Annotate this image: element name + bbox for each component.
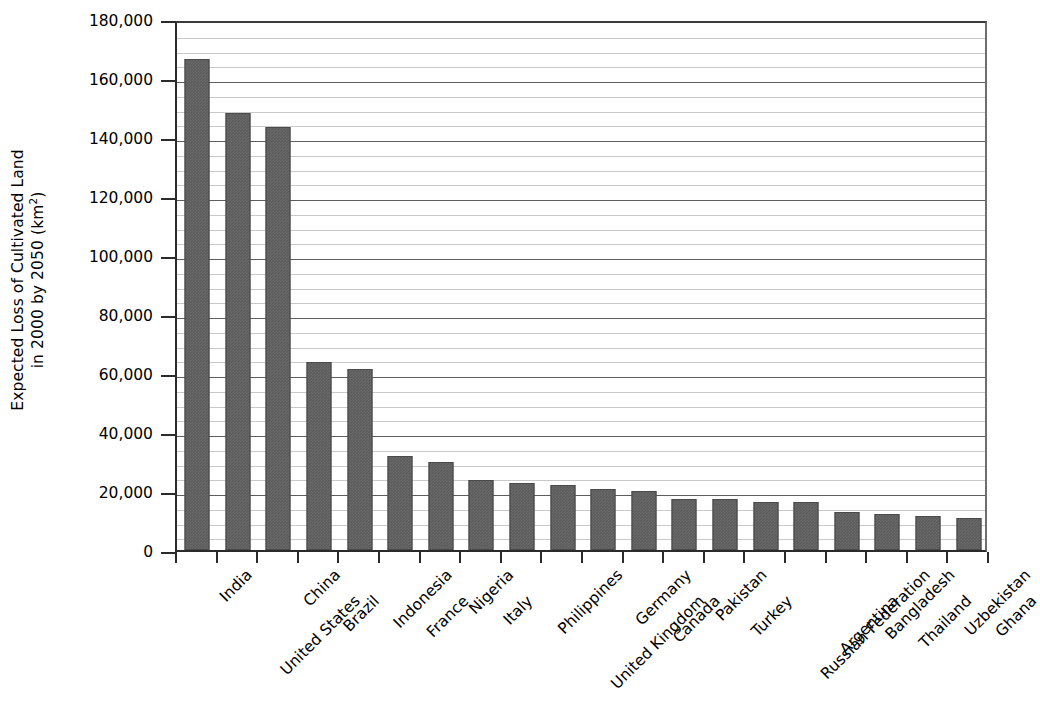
y-axis-tick-label: 80,000	[99, 305, 153, 327]
bar[interactable]	[591, 489, 616, 550]
x-axis-tick-mark	[743, 552, 745, 563]
y-axis-tick-mark	[161, 316, 175, 318]
y-axis-tick-mark	[161, 21, 175, 23]
x-axis-tick-mark	[703, 552, 705, 563]
bar-slot	[664, 23, 705, 550]
bar-slot	[705, 23, 746, 550]
x-axis-tick-mark	[256, 552, 258, 563]
bar[interactable]	[428, 462, 453, 550]
bar[interactable]	[347, 369, 372, 550]
bar[interactable]	[875, 514, 900, 550]
bar[interactable]	[388, 456, 413, 550]
bar-slot	[948, 23, 989, 550]
x-axis-tick-mark	[216, 552, 218, 563]
x-axis-label: India	[216, 566, 256, 606]
bar-slot	[177, 23, 218, 550]
y-axis-tick-label: 0	[143, 541, 153, 563]
bar[interactable]	[266, 127, 291, 550]
bar-slot	[299, 23, 340, 550]
bar[interactable]	[672, 499, 697, 550]
plot-area	[175, 21, 987, 552]
bar[interactable]	[307, 362, 332, 550]
x-axis-tick-mark	[540, 552, 542, 563]
x-axis-label: Italy	[499, 592, 536, 629]
y-axis-tick-label: 140,000	[89, 128, 153, 150]
y-axis-tick-label: 40,000	[99, 423, 153, 445]
bar-slot	[380, 23, 421, 550]
y-axis-title-line-2-prefix: in 2000 by 2050 (km	[29, 205, 47, 369]
bars-layer	[177, 23, 985, 550]
x-axis-tick-mark	[175, 552, 177, 563]
bar-slot	[218, 23, 259, 550]
y-axis-title: Expected Loss of Cultivated Land in 2000…	[0, 0, 56, 560]
x-axis-tick-mark	[500, 552, 502, 563]
x-axis-tick-mark	[825, 552, 827, 563]
bar[interactable]	[916, 516, 941, 550]
bar-slot	[867, 23, 908, 550]
y-axis-ticks: 020,00040,00060,00080,000100,000120,0001…	[0, 0, 175, 573]
bar-slot	[258, 23, 299, 550]
y-axis-tick-label: 180,000	[89, 10, 153, 32]
bar-slot	[827, 23, 868, 550]
x-axis-tick-mark	[297, 552, 299, 563]
y-axis-tick-label: 160,000	[89, 69, 153, 91]
bar-slot	[786, 23, 827, 550]
bar-slot	[542, 23, 583, 550]
y-axis-tick-mark	[161, 493, 175, 495]
x-axis-tick-mark	[865, 552, 867, 563]
y-axis-tick-mark	[161, 375, 175, 377]
bar[interactable]	[185, 59, 210, 550]
x-axis-tick-mark	[378, 552, 380, 563]
y-axis-tick-mark	[161, 198, 175, 200]
x-axis-tick-mark	[419, 552, 421, 563]
y-axis-title-line-2-suffix: )	[29, 192, 47, 198]
bar[interactable]	[469, 480, 494, 551]
bar-slot	[583, 23, 624, 550]
y-axis-tick-label: 100,000	[89, 246, 153, 268]
bar[interactable]	[794, 502, 819, 550]
x-axis-label: United States	[277, 592, 364, 679]
bar-slot	[339, 23, 380, 550]
y-axis-tick-mark	[161, 434, 175, 436]
bar[interactable]	[834, 512, 859, 550]
y-axis-tick-label: 120,000	[89, 187, 153, 209]
bar-slot	[624, 23, 665, 550]
y-axis-title-line-2: in 2000 by 2050 (km2)	[28, 149, 48, 410]
y-axis-tick-label: 20,000	[99, 482, 153, 504]
x-axis-ticks	[175, 552, 987, 566]
bar-slot	[461, 23, 502, 550]
x-axis-tick-mark	[337, 552, 339, 563]
x-axis-tick-mark	[946, 552, 948, 563]
y-axis-title-line-1: Expected Loss of Cultivated Land	[8, 149, 28, 410]
bar[interactable]	[550, 485, 575, 550]
x-axis-tick-mark	[784, 552, 786, 563]
x-axis-label: Turkey	[748, 592, 796, 640]
x-axis-tick-mark	[581, 552, 583, 563]
x-axis-label: Philippines	[555, 566, 627, 638]
x-axis-tick-mark	[662, 552, 664, 563]
x-axis-tick-mark	[622, 552, 624, 563]
x-axis-tick-mark	[906, 552, 908, 563]
bar[interactable]	[631, 491, 656, 550]
x-axis-tick-mark	[459, 552, 461, 563]
y-axis-tick-mark	[161, 552, 175, 554]
x-axis-label: China	[299, 566, 343, 610]
bar-slot	[502, 23, 543, 550]
bar-slot	[745, 23, 786, 550]
x-axis-tick-mark	[987, 552, 989, 563]
bar[interactable]	[753, 502, 778, 550]
bar-slot	[908, 23, 949, 550]
y-axis-tick-mark	[161, 139, 175, 141]
y-axis-tick-mark	[161, 80, 175, 82]
x-axis-labels: IndiaUnited StatesChinaBrazilIndonesiaFr…	[175, 566, 987, 716]
bar-slot	[421, 23, 462, 550]
y-axis-title-superscript: 2	[27, 198, 39, 205]
bar[interactable]	[225, 113, 250, 550]
bar[interactable]	[510, 483, 535, 550]
y-axis-tick-mark	[161, 257, 175, 259]
bar[interactable]	[956, 518, 981, 550]
y-axis-tick-label: 60,000	[99, 364, 153, 386]
bar[interactable]	[713, 499, 738, 550]
